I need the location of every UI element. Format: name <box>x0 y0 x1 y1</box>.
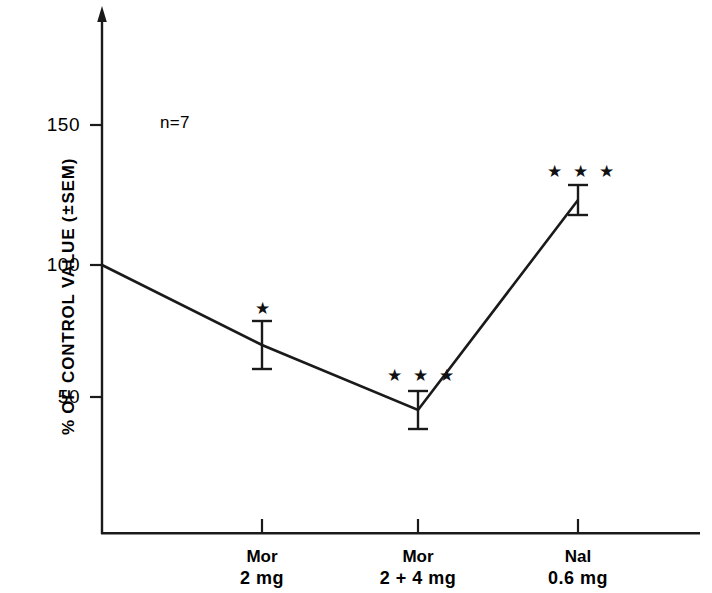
x-tick-label-line1: Mor <box>402 547 433 566</box>
y-tick-label-150: 150 <box>30 114 80 136</box>
y-tick-label-50: 50 <box>30 386 80 408</box>
y-axis-ticks <box>90 125 102 397</box>
x-tick-label-line2: 2 mg <box>240 567 284 590</box>
x-tick-label-line2: 0.6 mg <box>548 567 608 590</box>
sample-size-annotation: n=7 <box>160 113 190 133</box>
x-tick-label-mor-2mg: Mor 2 mg <box>240 546 284 590</box>
error-bar-mor-2mg <box>252 321 272 369</box>
plot-area <box>0 0 712 593</box>
y-axis <box>97 6 107 534</box>
significance-stars-mor-2mg: ★ <box>255 300 273 317</box>
data-line-series <box>102 200 578 410</box>
x-tick-label-mor-2-plus-4mg: Mor 2 + 4 mg <box>380 546 457 590</box>
error-bar-mor-2-plus-4mg <box>408 391 428 429</box>
significance-stars-nal-0-6mg: ★ ★ ★ <box>547 163 616 180</box>
figure-container: % OF CONTROL VALUE (± SEM) 150 100 50 Mo… <box>0 0 712 593</box>
y-tick-label-100: 100 <box>30 254 80 276</box>
significance-stars-mor-2-plus-4mg: ★ ★ ★ <box>387 367 456 384</box>
x-tick-label-line1: Nal <box>565 547 591 566</box>
x-tick-label-line2: 2 + 4 mg <box>380 567 457 590</box>
x-axis-ticks <box>262 519 578 533</box>
x-tick-label-nal-0-6mg: Nal 0.6 mg <box>548 546 608 590</box>
x-tick-label-line1: Mor <box>246 547 277 566</box>
